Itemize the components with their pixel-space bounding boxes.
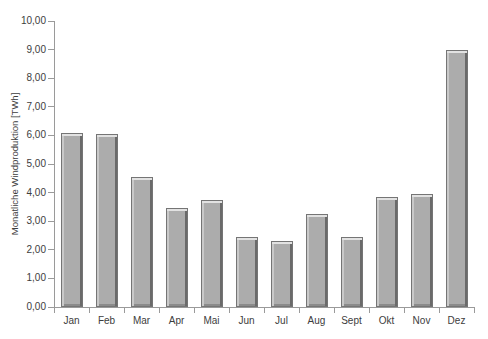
x-axis-tick <box>404 308 405 313</box>
x-tick-label-jul: Jul <box>264 315 299 327</box>
x-tick-label-aug: Aug <box>299 315 334 327</box>
y-tick-label: 10,00 <box>0 15 46 27</box>
x-axis-tick <box>299 308 300 313</box>
y-axis-line <box>54 21 55 308</box>
y-axis-tick <box>48 49 54 50</box>
y-tick-label: 6,00 <box>0 129 46 141</box>
x-tick-label-dez: Dez <box>439 315 474 327</box>
x-axis-tick <box>264 308 265 313</box>
x-tick-label-mar: Mar <box>124 315 159 327</box>
y-axis-tick <box>48 21 54 22</box>
x-axis-tick <box>89 308 90 313</box>
bar-aug <box>306 214 328 307</box>
bar-jun <box>236 237 258 307</box>
bar-okt <box>376 197 398 307</box>
y-axis-tick <box>48 192 54 193</box>
bar-apr <box>166 208 188 307</box>
y-tick-label: 3,00 <box>0 215 46 227</box>
x-tick-label-sept: Sept <box>334 315 369 327</box>
y-axis-tick <box>48 249 54 250</box>
bar-jan <box>61 133 83 307</box>
x-tick-label-apr: Apr <box>159 315 194 327</box>
x-axis-tick <box>439 308 440 313</box>
x-axis-tick <box>159 308 160 313</box>
x-tick-label-jan: Jan <box>54 315 89 327</box>
x-axis-tick <box>369 308 370 313</box>
bar-jul <box>271 241 293 307</box>
plot-area: 0,001,002,003,004,005,006,007,008,009,00… <box>54 21 474 307</box>
bar-feb <box>96 134 118 307</box>
x-tick-label-jun: Jun <box>229 315 264 327</box>
x-axis-tick <box>54 308 55 313</box>
y-axis-tick <box>48 78 54 79</box>
y-tick-label: 5,00 <box>0 158 46 170</box>
x-axis-tick <box>334 308 335 313</box>
x-axis-tick <box>124 308 125 313</box>
y-tick-label: 9,00 <box>0 44 46 56</box>
y-tick-label: 8,00 <box>0 72 46 84</box>
y-axis-tick <box>48 221 54 222</box>
bar-mai <box>201 200 223 307</box>
x-axis-tick <box>474 308 475 313</box>
y-tick-label: 7,00 <box>0 101 46 113</box>
bar-dez <box>446 50 468 307</box>
y-tick-label: 4,00 <box>0 187 46 199</box>
y-tick-label: 0,00 <box>0 301 46 313</box>
bar-nov <box>411 194 433 307</box>
y-tick-label: 1,00 <box>0 272 46 284</box>
x-axis-tick <box>194 308 195 313</box>
x-tick-label-mai: Mai <box>194 315 229 327</box>
x-tick-label-feb: Feb <box>89 315 124 327</box>
x-tick-label-okt: Okt <box>369 315 404 327</box>
y-axis-tick <box>48 106 54 107</box>
bar-mar <box>131 177 153 307</box>
y-axis-tick <box>48 164 54 165</box>
bar-sept <box>341 237 363 307</box>
y-tick-label: 2,00 <box>0 244 46 256</box>
x-axis-tick <box>229 308 230 313</box>
x-tick-label-nov: Nov <box>404 315 439 327</box>
wind-production-bar-chart: Monatliche Windproduktion [TWh] 0,001,00… <box>0 0 488 339</box>
y-axis-tick <box>48 135 54 136</box>
y-axis-tick <box>48 278 54 279</box>
